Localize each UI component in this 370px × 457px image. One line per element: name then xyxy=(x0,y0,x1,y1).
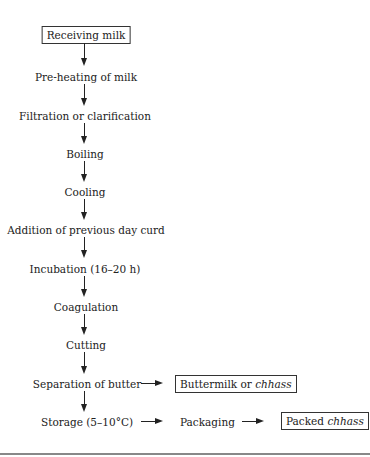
node-separation-butter: Separation of butter xyxy=(33,377,141,391)
bottom-rule xyxy=(0,453,370,455)
arrow-down-icon xyxy=(81,366,87,374)
arrow-right-icon xyxy=(155,380,163,386)
arrow-down-icon xyxy=(81,250,87,258)
arrow-down-icon xyxy=(81,327,87,335)
chhass-italic: chhass xyxy=(255,378,291,390)
arrow-down-icon xyxy=(81,136,87,144)
arrow-shaft xyxy=(84,276,85,290)
arrow-shaft xyxy=(84,161,85,175)
arrow-down-icon xyxy=(81,58,87,66)
node-packed-chhass: Packed chhass xyxy=(281,412,369,430)
node-buttermilk: Buttermilk or chhass xyxy=(175,375,297,393)
node-storage: Storage (5–10°C) xyxy=(41,415,133,429)
node-packaging: Packaging xyxy=(180,415,235,429)
arrow-shaft xyxy=(84,391,85,405)
node-addition-curd: Addition of previous day curd xyxy=(7,223,165,237)
node-incubation: Incubation (16–20 h) xyxy=(30,262,141,276)
arrow-down-icon xyxy=(81,289,87,297)
chhass-italic: chhass xyxy=(327,415,363,427)
node-boiling: Boiling xyxy=(66,147,104,161)
arrow-shaft xyxy=(84,352,85,367)
arrow-shaft xyxy=(84,84,85,99)
arrow-right-icon xyxy=(256,418,264,424)
arrow-down-icon xyxy=(81,404,87,412)
arrow-right-icon xyxy=(155,418,163,424)
node-coagulation: Coagulation xyxy=(54,300,118,314)
arrow-down-icon xyxy=(81,212,87,220)
node-pre-heating: Pre-heating of milk xyxy=(35,70,137,84)
packed-label: Packed xyxy=(286,415,327,427)
node-cutting: Cutting xyxy=(66,338,106,352)
node-cooling: Cooling xyxy=(65,185,106,199)
arrow-shaft xyxy=(84,43,85,59)
buttermilk-label: Buttermilk or xyxy=(180,378,255,390)
node-filtration: Filtration or clarification xyxy=(19,109,151,123)
arrow-down-icon xyxy=(81,98,87,106)
arrow-down-icon xyxy=(81,174,87,182)
node-receiving-milk: Receiving milk xyxy=(42,26,131,44)
